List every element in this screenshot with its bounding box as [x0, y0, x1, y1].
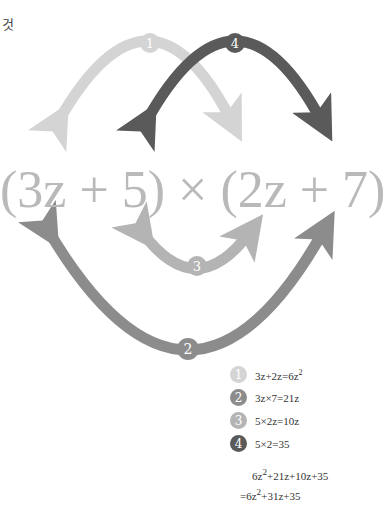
legend-text-3: 5×2z=10z — [255, 415, 299, 427]
right-factor: (2z + 7) — [220, 161, 385, 218]
result-line-2: =6z2+31z+35 — [240, 484, 328, 504]
legend-text-4: 5×2=35 — [255, 438, 289, 450]
legend-sup-1: 2 — [299, 368, 303, 377]
expression: (3z + 5) × (2z + 7) — [0, 160, 360, 219]
arrow-4-label: 4 — [231, 36, 239, 51]
legend-item-2: 2 3z×7=21z — [230, 387, 303, 408]
arrow-3: 3 — [142, 232, 250, 276]
legend: 1 3z+2z=6z2 2 3z×7=21z 3 5×2z=10z 4 5×2=… — [230, 364, 303, 456]
legend-item-3: 3 5×2z=10z — [230, 410, 303, 431]
arrow-1-label: 1 — [146, 36, 154, 51]
legend-text-2: 3z×7=21z — [255, 392, 299, 404]
legend-item-4: 4 5×2=35 — [230, 433, 303, 454]
arrow-2: 2 — [48, 230, 324, 360]
arrow-2-label: 2 — [184, 341, 193, 357]
times-sign: × — [178, 161, 207, 218]
legend-badge-4: 4 — [230, 435, 247, 452]
legend-badge-3: 3 — [230, 412, 247, 429]
arrow-3-label: 3 — [193, 259, 201, 274]
result-line-1: 6z2+21z+10z+35 — [252, 464, 328, 484]
legend-badge-2: 2 — [230, 389, 247, 406]
legend-text-1: 3z+2z=6z — [255, 369, 299, 381]
legend-badge-1: 1 — [230, 366, 247, 383]
left-factor: (3z + 5) — [0, 161, 165, 218]
result: 6z2+21z+10z+35 =6z2+31z+35 — [252, 464, 328, 503]
legend-item-1: 1 3z+2z=6z2 — [230, 364, 303, 385]
